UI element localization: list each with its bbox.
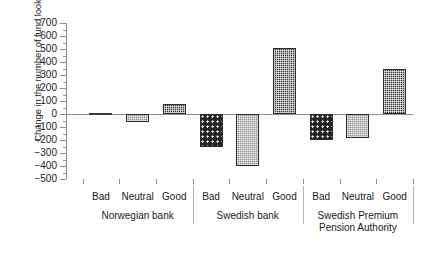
x-axis-group-label: Swedish PremiumPension Authority (303, 210, 413, 234)
y-axis-tick-label: 500 (23, 43, 57, 54)
y-axis-tick: 700 (60, 23, 66, 24)
y-axis-tick-label: −500 (23, 173, 57, 184)
y-axis-minor-tick (63, 30, 66, 31)
x-axis-category-label: Good (266, 191, 303, 203)
x-axis-tick (340, 179, 341, 184)
y-axis-tick-label: 200 (23, 82, 57, 93)
x-axis-tick (413, 179, 414, 184)
x-axis-category-label: Bad (193, 191, 230, 203)
bar-norwegian-bank-neutral (126, 114, 149, 122)
x-axis-tick (303, 179, 304, 184)
y-axis-tick-label: −400 (23, 160, 57, 171)
y-axis-tick: 500 (60, 49, 66, 50)
x-axis-category-label: Neutral (229, 191, 266, 203)
y-axis-minor-tick (63, 43, 66, 44)
y-axis-tick: 300 (60, 75, 66, 76)
y-axis-minor-tick (63, 56, 66, 57)
x-axis-category-label: Neutral (119, 191, 156, 203)
x-axis-category-label: Bad (83, 191, 120, 203)
bar-chart-figure: Change in the number of fund look-ups 70… (0, 0, 430, 262)
x-axis-tick (83, 179, 84, 184)
bar-swedish-bank-bad (200, 114, 223, 147)
y-axis-tick-label: −200 (23, 134, 57, 145)
x-axis-group-label: Norwegian bank (83, 210, 193, 222)
y-axis-tick-label: 400 (23, 56, 57, 67)
y-axis-minor-tick (63, 69, 66, 70)
y-axis-tick: −500 (60, 179, 66, 180)
x-axis-tick (193, 179, 194, 184)
y-axis-tick-label: −100 (23, 121, 57, 132)
x-axis-category-label: Good (156, 191, 193, 203)
y-axis-minor-tick (63, 95, 66, 96)
bar-norwegian-bank-bad (89, 113, 112, 115)
y-axis-tick: −100 (60, 127, 66, 128)
y-axis-minor-tick (63, 160, 66, 161)
bar-swedish-premium-pension-authority-bad (310, 114, 333, 140)
y-axis-tick-label: 100 (23, 95, 57, 106)
bar-swedish-premium-pension-authority-good (383, 69, 406, 115)
y-axis-minor-tick (63, 173, 66, 174)
y-axis-minor-tick (63, 134, 66, 135)
x-axis-group-label-line: Swedish Premium (303, 210, 413, 222)
y-axis-minor-tick (63, 108, 66, 109)
x-axis-tick (156, 179, 157, 184)
x-axis-group-label-line: Pension Authority (303, 222, 413, 234)
y-axis-tick: −300 (60, 153, 66, 154)
x-axis-tick (229, 179, 230, 184)
x-axis-category-label: Good (376, 191, 413, 203)
bar-norwegian-bank-good (163, 104, 186, 114)
y-axis-minor-tick (63, 147, 66, 148)
x-axis-category-label: Neutral (340, 191, 377, 203)
y-axis-tick-label: 700 (23, 17, 57, 28)
x-axis-tick (376, 179, 377, 184)
y-axis-tick-label: 0 (23, 108, 57, 119)
group-separator (413, 186, 414, 224)
y-axis-tick-label: 600 (23, 30, 57, 41)
bar-swedish-bank-neutral (236, 114, 259, 166)
y-axis-tick: 200 (60, 88, 66, 89)
y-axis-tick: 400 (60, 62, 66, 63)
y-axis-tick-label: 300 (23, 69, 57, 80)
y-axis-tick: −400 (60, 166, 66, 167)
y-axis-minor-tick (63, 121, 66, 122)
y-axis-tick-label: −300 (23, 147, 57, 158)
plot-area: 7006005004003002001000−100−200−300−400−5… (66, 23, 413, 179)
y-axis-tick: −200 (60, 140, 66, 141)
y-axis-line (66, 23, 67, 179)
bar-swedish-premium-pension-authority-neutral (346, 114, 369, 138)
bar-swedish-bank-good (273, 48, 296, 114)
x-axis-tick (266, 179, 267, 184)
y-axis-tick: 600 (60, 36, 66, 37)
x-axis-group-label: Swedish bank (193, 210, 303, 222)
y-axis-tick: 100 (60, 101, 66, 102)
x-axis-category-label: Bad (303, 191, 340, 203)
x-axis-tick (119, 179, 120, 184)
y-axis-tick: 0 (60, 114, 66, 115)
y-axis-minor-tick (63, 82, 66, 83)
